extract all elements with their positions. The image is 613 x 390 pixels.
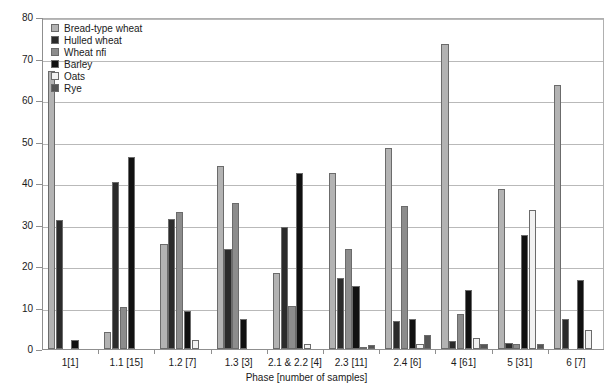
y-tick-label-60: 60 (0, 96, 33, 106)
y-tick-label-10: 10 (0, 304, 33, 314)
bar (577, 280, 584, 349)
x-tick (379, 349, 380, 354)
x-tick (323, 349, 324, 354)
y-tick-label-70: 70 (0, 55, 33, 65)
legend-label: Barley (64, 59, 92, 70)
bar (401, 206, 408, 349)
legend-swatch-icon (51, 60, 59, 68)
legend-swatch-icon (51, 84, 59, 92)
y-tick-label-0: 0 (0, 345, 33, 355)
bar (184, 311, 191, 349)
x-tick (267, 349, 268, 354)
bar-group (385, 19, 431, 349)
bar-group (273, 19, 319, 349)
bar (56, 220, 63, 349)
y-tick-label-50: 50 (0, 138, 33, 148)
bar (120, 307, 127, 349)
legend-item: Wheat nfi (51, 46, 142, 58)
bar (71, 340, 78, 349)
legend-label: Oats (64, 71, 85, 82)
bar (337, 278, 344, 349)
legend-swatch-icon (51, 24, 59, 32)
bar-chart: 01020304050607080 1[1]1.1 [15]1.2 [7]1.3… (0, 0, 613, 390)
bar (217, 166, 224, 349)
legend-label: Hulled wheat (64, 35, 122, 46)
legend: Bread-type wheatHulled wheatWheat nfiBar… (51, 22, 142, 94)
x-tick (98, 349, 99, 354)
legend-item: Hulled wheat (51, 34, 142, 46)
bar (112, 182, 119, 349)
bar (232, 203, 239, 349)
bar (48, 71, 55, 349)
legend-swatch-icon (51, 36, 59, 44)
bar (224, 249, 231, 349)
bar (529, 210, 536, 349)
bar (473, 338, 480, 349)
bar (192, 340, 199, 349)
y-tick-0 (36, 350, 42, 351)
legend-swatch-icon (51, 48, 59, 56)
y-tick-label-20: 20 (0, 262, 33, 272)
x-tick (492, 349, 493, 354)
bar (281, 227, 288, 349)
bar (240, 319, 247, 349)
bar-group (217, 19, 263, 349)
x-group-label: 6 [7] (532, 357, 613, 368)
bar (104, 332, 111, 349)
legend-label: Bread-type wheat (64, 23, 142, 34)
bar (409, 319, 416, 349)
bar (128, 157, 135, 349)
bar (288, 306, 295, 349)
legend-swatch-icon (51, 72, 59, 80)
bar (296, 173, 303, 349)
legend-label: Wheat nfi (64, 47, 106, 58)
bar (168, 219, 175, 349)
bar (393, 321, 400, 349)
x-tick (154, 349, 155, 354)
bar-group (160, 19, 206, 349)
bar (329, 173, 336, 349)
legend-item: Barley (51, 58, 142, 70)
bar (176, 212, 183, 349)
bar (424, 335, 431, 349)
bar (457, 314, 464, 349)
bar (160, 244, 167, 349)
bar (441, 44, 448, 349)
bar-group (329, 19, 375, 349)
x-tick (435, 349, 436, 354)
bar-group (498, 19, 544, 349)
bar (554, 85, 561, 349)
legend-item: Bread-type wheat (51, 22, 142, 34)
y-tick-label-30: 30 (0, 221, 33, 231)
y-tick-label-80: 80 (0, 13, 33, 23)
y-axis-line (42, 18, 43, 350)
legend-item: Rye (51, 82, 142, 94)
x-tick (548, 349, 549, 354)
legend-label: Rye (64, 83, 82, 94)
bar (385, 148, 392, 349)
bar (352, 286, 359, 349)
x-axis-title: Phase [number of samples] (0, 372, 613, 383)
bar (498, 189, 505, 349)
y-tick-label-40: 40 (0, 179, 33, 189)
bar (273, 273, 280, 349)
legend-item: Oats (51, 70, 142, 82)
bar (562, 319, 569, 349)
bar-group (554, 19, 600, 349)
bar-group (441, 19, 487, 349)
bar (521, 235, 528, 349)
bar (345, 249, 352, 349)
x-tick (211, 349, 212, 354)
bar (585, 330, 592, 350)
bar (465, 290, 472, 349)
bar (449, 341, 456, 349)
